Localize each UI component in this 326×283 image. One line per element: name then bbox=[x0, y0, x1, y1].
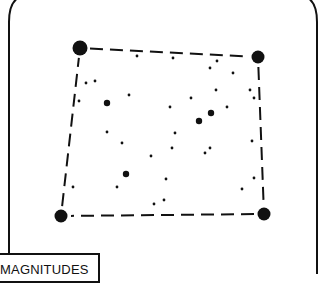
boundary-segment bbox=[62, 58, 79, 206]
star-small bbox=[174, 132, 177, 135]
magnitudes-legend: MAGNITUDES bbox=[0, 253, 100, 283]
legend-title: MAGNITUDES bbox=[0, 262, 89, 277]
star-small bbox=[204, 152, 207, 155]
star-small bbox=[72, 186, 75, 189]
star-small bbox=[232, 72, 235, 75]
star-small bbox=[94, 80, 97, 83]
star-small bbox=[190, 97, 193, 100]
star-small bbox=[209, 67, 212, 70]
star-small bbox=[253, 177, 256, 180]
star-small bbox=[226, 106, 229, 109]
star-small bbox=[171, 147, 174, 150]
star-small bbox=[253, 97, 256, 100]
corner-stars bbox=[55, 41, 271, 223]
star-medium bbox=[196, 118, 202, 124]
corner-star-top-right bbox=[252, 51, 265, 64]
corner-star-bottom-left bbox=[55, 210, 68, 223]
star-small bbox=[150, 155, 153, 158]
star-small bbox=[169, 106, 172, 109]
star-small bbox=[215, 89, 218, 92]
star-small bbox=[172, 57, 175, 60]
star-small bbox=[216, 60, 219, 63]
star-small bbox=[209, 147, 212, 150]
star-small bbox=[165, 178, 168, 181]
star-small bbox=[153, 203, 156, 206]
star-medium bbox=[208, 110, 214, 116]
star-small bbox=[85, 82, 88, 85]
star-small bbox=[106, 131, 109, 134]
star-small bbox=[136, 55, 139, 58]
star-small bbox=[128, 94, 131, 97]
corner-star-bottom-right bbox=[258, 208, 271, 221]
star-small bbox=[249, 89, 252, 92]
corner-star-top-left bbox=[73, 41, 88, 56]
boundary-segment bbox=[71, 214, 254, 216]
star-small bbox=[251, 140, 254, 143]
star-small bbox=[241, 188, 244, 191]
star-small bbox=[116, 186, 119, 189]
star-small bbox=[163, 199, 166, 202]
chart-frame bbox=[9, 0, 317, 274]
boundary-segment bbox=[90, 49, 248, 57]
star-small bbox=[78, 100, 81, 103]
star-medium bbox=[104, 100, 110, 106]
star-small bbox=[121, 142, 124, 145]
boundary-segment bbox=[258, 67, 263, 204]
star-medium bbox=[123, 171, 129, 177]
field-stars bbox=[72, 55, 256, 206]
